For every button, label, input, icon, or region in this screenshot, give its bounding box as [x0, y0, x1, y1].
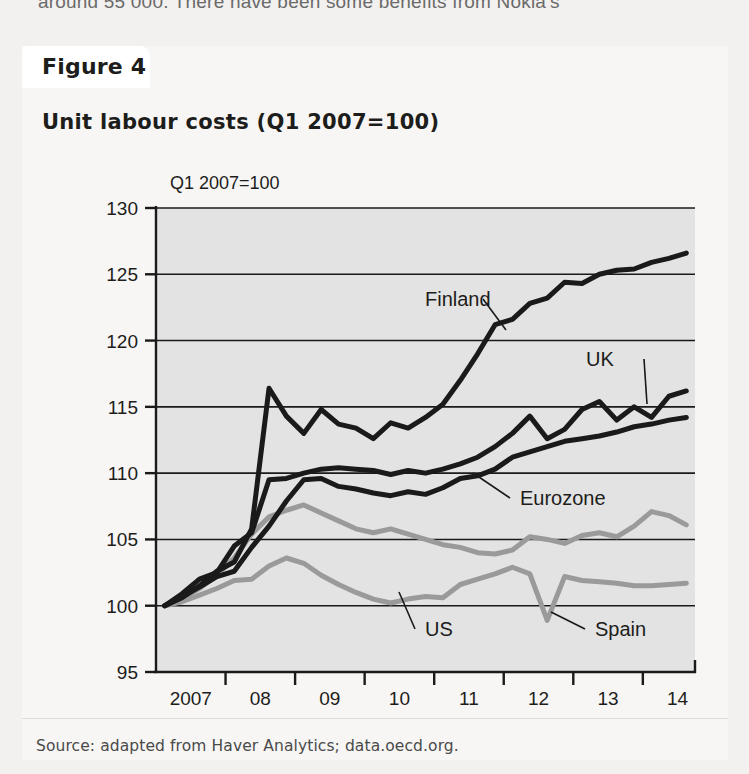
figure-source: Source: adapted from Haver Analytics; da… [36, 737, 459, 755]
figure-title: Unit labour costs (Q1 2007=100) [42, 110, 439, 134]
figure-tab-label: Figure 4 [42, 54, 146, 79]
figure-card [22, 46, 728, 760]
body-text-fragment: around 55 000. There have been some bene… [38, 0, 738, 13]
card-divider [22, 718, 728, 719]
